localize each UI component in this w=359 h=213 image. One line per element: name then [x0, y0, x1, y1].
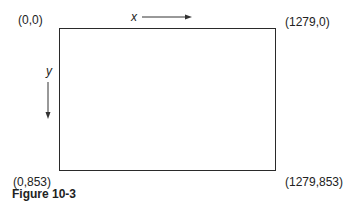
figure-caption: Figure 10-3 — [12, 187, 76, 201]
x-direction-arrow-icon — [142, 15, 192, 20]
axis-arrows — [0, 0, 359, 213]
y-direction-arrow-icon — [46, 82, 51, 119]
